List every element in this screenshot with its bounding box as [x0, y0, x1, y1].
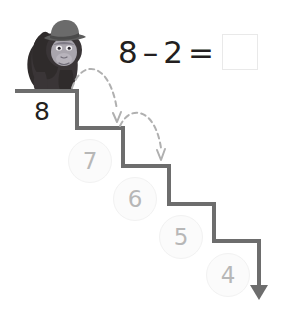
gorilla-character [27, 20, 86, 90]
downward-arrow [250, 285, 268, 300]
answer-input-box[interactable] [222, 34, 258, 70]
minus-operator-icon: – [143, 37, 159, 68]
equation: 8 – 2 = [118, 28, 258, 76]
step-label-4: 4 [216, 264, 240, 287]
step-label-6: 6 [123, 188, 147, 211]
worksheet-canvas: 8 – 2 = 8 7 6 5 4 [0, 0, 293, 311]
equals-operator-icon: = [188, 37, 214, 68]
step-label-8: 8 [30, 99, 54, 124]
hop-7-to-6 [120, 113, 165, 160]
step-label-5: 5 [169, 226, 193, 249]
hop-8-to-7 [72, 69, 121, 122]
step-label-7: 7 [78, 150, 102, 173]
equation-minuend: 8 [118, 37, 138, 68]
equation-subtrahend: 2 [163, 37, 183, 68]
